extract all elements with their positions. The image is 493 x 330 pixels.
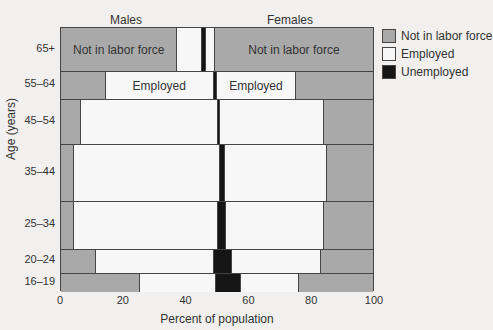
panel-label-females: Females <box>267 13 313 27</box>
bar-segment-emp <box>231 250 320 273</box>
legend-swatch-icon <box>382 47 396 61</box>
legend-label: Not in labor force <box>401 29 492 43</box>
bar-segment-nilf <box>61 274 139 292</box>
bar-row <box>61 273 373 292</box>
y-tick-label: 16–19 <box>24 275 55 287</box>
bar-segment-emp: Employed <box>216 72 295 99</box>
legend-label: Unemployed <box>401 65 468 79</box>
bar-row <box>61 249 373 273</box>
legend-label: Employed <box>401 47 454 61</box>
bar-segment-unemp <box>217 202 225 249</box>
bar-segment-emp <box>225 202 323 249</box>
bar-segment-emp: Employed <box>105 72 213 99</box>
bar-segment-emp <box>224 145 326 201</box>
bar-segment-nilf <box>320 250 373 273</box>
x-tick-label: 40 <box>179 294 191 306</box>
bar-segment-emp <box>80 100 217 144</box>
y-tick-label: 25–34 <box>24 217 55 229</box>
bar-segment-emp <box>219 100 323 144</box>
bar-segment-nilf <box>326 145 373 201</box>
y-tick-label: 20–24 <box>24 253 55 265</box>
x-tick-label: 20 <box>117 294 129 306</box>
bar-segment-nilf <box>323 202 373 249</box>
bar-segment-nilf <box>61 72 105 99</box>
bar-segment-emp <box>240 274 298 292</box>
bar-segment-nilf <box>298 274 373 292</box>
bar-segment-nilf <box>61 145 73 201</box>
legend-swatch-icon <box>382 29 396 43</box>
segment-label: Not in labor force <box>248 43 339 57</box>
x-tick-label: 80 <box>305 294 317 306</box>
bar-row: Not in labor forceNot in labor force <box>61 28 373 71</box>
y-tick-label: 55–64 <box>24 77 55 89</box>
x-tick-label: 60 <box>242 294 254 306</box>
bar-segment-unemp <box>213 250 231 273</box>
segment-label: Employed <box>229 79 282 93</box>
bar-segment-nilf <box>61 250 95 273</box>
legend: Not in labor forceEmployedUnemployed <box>382 27 492 81</box>
y-tick-label: 35–44 <box>24 165 55 177</box>
bar-segment-nilf <box>323 100 373 144</box>
bar-segment-nilf: Not in labor force <box>214 28 373 71</box>
bar-segment-nilf <box>61 202 73 249</box>
x-tick-label: 100 <box>365 294 383 306</box>
y-axis-title: Age (years) <box>4 98 18 160</box>
bar-row <box>61 144 373 201</box>
bar-row <box>61 99 373 144</box>
bar-row <box>61 201 373 249</box>
segment-label: Employed <box>133 79 186 93</box>
bar-segment-nilf <box>295 72 373 99</box>
y-tick-label: 65+ <box>36 42 55 54</box>
bar-segment-unemp <box>215 274 240 292</box>
panel-label-males: Males <box>110 13 142 27</box>
legend-item: Employed <box>382 45 492 63</box>
segment-label: Not in labor force <box>73 43 164 57</box>
x-axis-title: Percent of population <box>160 312 273 326</box>
legend-swatch-icon <box>382 65 396 79</box>
legend-item: Unemployed <box>382 63 492 81</box>
bar-segment-nilf <box>61 100 80 144</box>
x-tick-label: 0 <box>57 294 63 306</box>
plot-area: Not in labor forceNot in labor forceEmpl… <box>60 27 374 291</box>
bar-segment-emp <box>95 250 213 273</box>
bar-segment-emp <box>139 274 215 292</box>
bar-segment-emp <box>205 28 214 71</box>
y-tick-label: 45–54 <box>24 114 55 126</box>
bar-row: EmployedEmployed <box>61 71 373 99</box>
bar-segment-nilf: Not in labor force <box>61 28 176 71</box>
bar-segment-emp <box>73 202 217 249</box>
bar-segment-emp <box>176 28 201 71</box>
legend-item: Not in labor force <box>382 27 492 45</box>
bar-segment-emp <box>73 145 218 201</box>
